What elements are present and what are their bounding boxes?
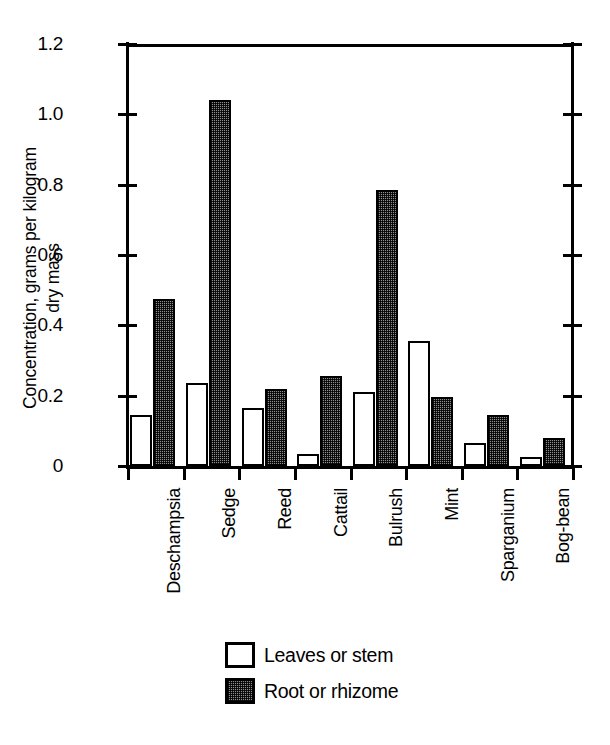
y-tick-label-0.4: 0.4 — [3, 315, 63, 334]
bar-cattail-root — [320, 376, 342, 466]
legend-swatch-root — [225, 678, 255, 704]
x-axis-label-sedge: Sedge — [220, 488, 238, 539]
x-tick-0 — [127, 466, 130, 480]
x-axis-label-deschampsia: Deschampsia — [165, 488, 183, 594]
bar-reed-leaves — [242, 408, 264, 466]
y-tick-label-0.8: 0.8 — [3, 175, 63, 194]
bar-reed-root — [265, 389, 287, 466]
x-axis-label-cattail: Cattail — [332, 488, 350, 537]
bar-mint-leaves — [408, 341, 430, 466]
y-axis-title: Concentration, grams per kilogram dry ma… — [19, 68, 65, 488]
x-tick-2 — [238, 466, 241, 480]
y-tick-label-0.6: 0.6 — [3, 245, 63, 264]
bar-bulrush-leaves — [353, 392, 375, 466]
x-axis-label-reed: Reed — [276, 488, 294, 530]
bar-sedge-leaves — [186, 383, 208, 466]
bar-sparganium-leaves — [464, 443, 486, 466]
bar-sedge-root — [209, 100, 231, 466]
bar-group — [128, 44, 573, 466]
legend-label-leaves: Leaves or stem — [264, 645, 393, 665]
bar-mint-root — [431, 397, 453, 466]
y-tick-label-0.2: 0.2 — [3, 386, 63, 405]
bar-chart-figure: Concentration, grams per kilogram dry ma… — [0, 0, 610, 745]
x-tick-6 — [461, 466, 464, 480]
x-tick-7 — [516, 466, 519, 480]
x-axis-label-sparganium: Sparganium — [499, 488, 517, 582]
bar-cattail-leaves — [297, 454, 319, 466]
bar-bulrush-root — [376, 190, 398, 466]
legend-item-leaves: Leaves or stem — [225, 637, 398, 673]
chart-legend: Leaves or stemRoot or rhizome — [225, 637, 398, 709]
x-tick-5 — [405, 466, 408, 480]
bar-bog-bean-root — [543, 438, 565, 466]
x-tick-3 — [294, 466, 297, 480]
x-axis-label-bulrush: Bulrush — [387, 488, 405, 547]
bar-deschampsia-root — [153, 299, 175, 466]
bar-bog-bean-leaves — [520, 457, 542, 466]
y-tick-label-1.0: 1.0 — [3, 104, 63, 123]
legend-item-root: Root or rhizome — [225, 673, 398, 709]
x-axis-label-mint: Mint — [443, 488, 461, 521]
x-tick-1 — [183, 466, 186, 480]
x-tick-8 — [572, 466, 575, 480]
y-tick-label-1.2: 1.2 — [3, 34, 63, 53]
y-tick-label-0: 0 — [3, 456, 63, 475]
x-axis-label-bog-bean: Bog-bean — [554, 488, 572, 564]
legend-label-root: Root or rhizome — [264, 681, 398, 701]
legend-swatch-leaves — [225, 642, 255, 668]
bar-sparganium-root — [487, 415, 509, 466]
bar-deschampsia-leaves — [130, 415, 152, 466]
x-tick-4 — [350, 466, 353, 480]
